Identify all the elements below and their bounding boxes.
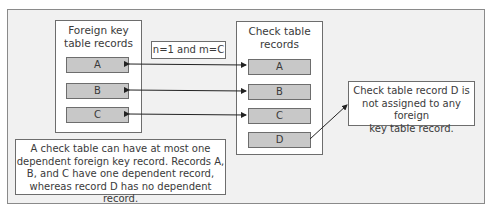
arrow-a (129, 64, 246, 65)
arrow-b (129, 90, 246, 91)
arrow-d-note (310, 105, 347, 139)
arrow-c (129, 114, 246, 115)
connector-arrows (0, 0, 488, 213)
